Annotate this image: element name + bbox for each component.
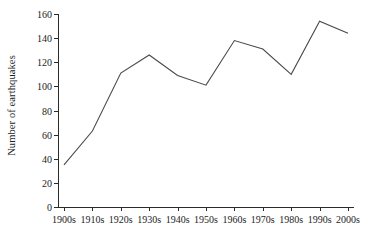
y-axis-tick-label-40: 40 [42,153,52,164]
x-axis-tick-label-1960s: 1960s [222,214,246,225]
x-axis-tick-label-1990s: 1990s [308,214,332,225]
y-axis-tick-label-80: 80 [42,105,52,116]
x-axis-tick-1960s [234,207,235,211]
x-axis-tick-1950s [206,207,207,211]
x-axis-tick-1970s [263,207,264,211]
x-axis-tick-1920s [121,207,122,211]
x-axis-tick-1930s [149,207,150,211]
x-axis-tick-label-1970s: 1970s [251,214,275,225]
y-axis-tick-label-160: 160 [37,9,52,20]
x-axis-tick-label-1980s: 1980s [279,214,303,225]
x-axis-tick-label-1900s: 1900s [52,214,76,225]
y-axis-title-container: Number of earthquakes [0,0,22,210]
y-axis-tick-label-0: 0 [47,202,52,213]
x-axis-tick-label-1910s: 1910s [80,214,104,225]
series-line-svg [58,14,354,207]
x-axis-tick-1980s [291,207,292,211]
y-axis-tick-label-120: 120 [37,57,52,68]
x-axis-tick-label-1930s: 1930s [137,214,161,225]
chart-figure: Number of earthquakes 020406080100120140… [0,0,372,237]
y-axis-tick-label-140: 140 [37,33,52,44]
x-axis-tick-1990s [320,207,321,211]
x-axis-tick-1940s [178,207,179,211]
x-axis-tick-2000s [348,207,349,211]
y-axis-tick-label-60: 60 [42,129,52,140]
series-line-earthquakes [64,21,348,165]
x-axis-tick-1900s [64,207,65,211]
y-axis-tick-0 [54,207,58,208]
x-axis-tick-label-1920s: 1920s [109,214,133,225]
y-axis-title: Number of earthquakes [6,55,17,156]
x-axis-tick-label-1950s: 1950s [194,214,218,225]
x-axis-tick-1910s [92,207,93,211]
x-axis-tick-label-1940s: 1940s [166,214,190,225]
y-axis-tick-label-100: 100 [37,81,52,92]
y-axis-tick-label-20: 20 [42,177,52,188]
plot-area: 020406080100120140160 1900s1910s1920s193… [58,14,354,207]
x-axis-tick-label-2000s: 2000s [336,214,360,225]
